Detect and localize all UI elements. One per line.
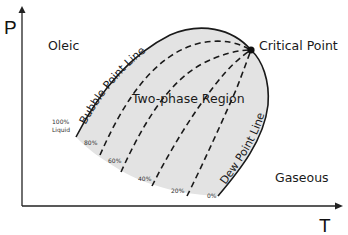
critical-point-label: Critical Point: [259, 38, 338, 53]
critical-point-marker: [247, 46, 254, 53]
phase-diagram: P T Oleic Gaseous Two-phase Region Criti…: [0, 0, 348, 235]
y-axis-label: P: [4, 17, 17, 38]
quality-label-20: 20%: [171, 187, 185, 194]
quality-label-0: 0%: [207, 192, 217, 199]
quality-label-60: 60%: [108, 157, 122, 164]
x-axis-arrow-icon: [335, 203, 343, 210]
quality-label-liquid: Liquid: [52, 126, 70, 134]
quality-label-100: 100%: [52, 118, 69, 125]
quality-label-40: 40%: [138, 175, 152, 182]
quality-label-80: 80%: [84, 139, 98, 146]
x-axis-label: T: [319, 215, 331, 235]
oleic-label: Oleic: [48, 38, 79, 53]
y-axis-arrow-icon: [19, 6, 26, 13]
two-phase-region-label: Two-phase Region: [131, 91, 245, 106]
gaseous-label: Gaseous: [275, 170, 329, 185]
two-phase-envelope: [76, 28, 268, 196]
